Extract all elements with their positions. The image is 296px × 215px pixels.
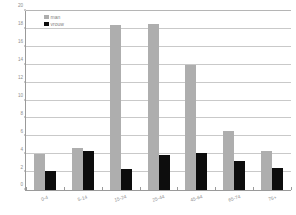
- bar-man-45-64: [185, 65, 196, 190]
- bar-man-0-4: [34, 154, 45, 190]
- legend-label-vrouw: vrouw: [51, 22, 64, 27]
- x-axis-tick-mark: [291, 187, 292, 190]
- plot-area: 02468101214161820: [25, 11, 291, 191]
- x-axis-label-cell: 5-14: [63, 191, 101, 215]
- x-axis-label-45-64: 45-64: [190, 195, 203, 203]
- legend-item-man: man: [44, 14, 64, 20]
- bar-group: [215, 11, 253, 190]
- y-axis-tick-label: 4: [20, 147, 23, 152]
- legend-swatch-vrouw-icon: [44, 22, 49, 27]
- bar-group: [64, 11, 102, 190]
- y-axis-tick-label: 2: [20, 165, 23, 170]
- y-axis-tick-label: 18: [18, 22, 23, 27]
- legend-item-vrouw: vrouw: [44, 21, 64, 27]
- x-axis-label-cell: 15-24: [101, 191, 139, 215]
- bar-group: [26, 11, 64, 190]
- bar-group: [253, 11, 291, 190]
- bar-man-65-74: [223, 131, 234, 190]
- x-axis-label-cell: 45-64: [177, 191, 215, 215]
- bar-vrouw-65-74: [234, 161, 245, 190]
- legend-swatch-man-icon: [44, 15, 49, 20]
- bar-vrouw-25-44: [159, 155, 170, 190]
- bar-man-75+: [261, 151, 272, 190]
- x-axis-label-65-74: 65-74: [228, 195, 241, 203]
- x-axis-tick-mark: [177, 187, 178, 190]
- x-axis-tick-mark: [64, 187, 65, 190]
- x-axis-label-cell: 0-4: [25, 191, 63, 215]
- y-axis-tick-label: 12: [18, 76, 23, 81]
- y-axis-tick-label: 20: [18, 4, 23, 9]
- bar-vrouw-15-24: [121, 169, 132, 190]
- x-axis-tick-mark: [26, 187, 27, 190]
- bar-man-5-14: [72, 148, 83, 190]
- y-axis-tick-label: 16: [18, 40, 23, 45]
- bar-vrouw-5-14: [83, 151, 94, 190]
- x-axis-label-cell: 25-44: [139, 191, 177, 215]
- y-axis-tick-label: 14: [18, 58, 23, 63]
- bar-man-15-24: [110, 25, 121, 190]
- chart-legend: man vrouw: [44, 14, 64, 27]
- x-axis-tick-mark: [215, 187, 216, 190]
- x-axis-tick-mark: [102, 187, 103, 190]
- x-axis-label-cell: 75+: [253, 191, 291, 215]
- bar-vrouw-75+: [272, 168, 283, 190]
- bar-groups: [26, 11, 291, 190]
- x-axis-tick-mark: [140, 187, 141, 190]
- x-axis-label-25-44: 25-44: [152, 195, 165, 203]
- legend-label-man: man: [51, 15, 61, 20]
- x-axis-labels: 0-45-1415-2425-4445-6465-7475+: [25, 191, 291, 215]
- x-axis-tick-mark: [253, 187, 254, 190]
- x-axis-label-75+: 75+: [268, 196, 277, 203]
- bar-vrouw-45-64: [196, 153, 207, 190]
- bar-man-25-44: [148, 24, 159, 190]
- bar-group: [177, 11, 215, 190]
- bar-vrouw-0-4: [45, 171, 56, 190]
- bar-chart: 02468101214161820 0-45-1415-2425-4445-64…: [0, 0, 296, 215]
- bar-group: [140, 11, 178, 190]
- y-axis-tick-label: 10: [18, 94, 23, 99]
- y-axis-tick-label: 0: [20, 183, 23, 188]
- y-axis-tick-label: 6: [20, 129, 23, 134]
- bar-group: [102, 11, 140, 190]
- x-axis-label-15-24: 15-24: [114, 195, 127, 203]
- y-axis-tick-label: 8: [20, 112, 23, 117]
- x-axis-label-0-4: 0-4: [41, 196, 49, 203]
- x-axis-label-cell: 65-74: [215, 191, 253, 215]
- x-axis-label-5-14: 5-14: [77, 196, 88, 204]
